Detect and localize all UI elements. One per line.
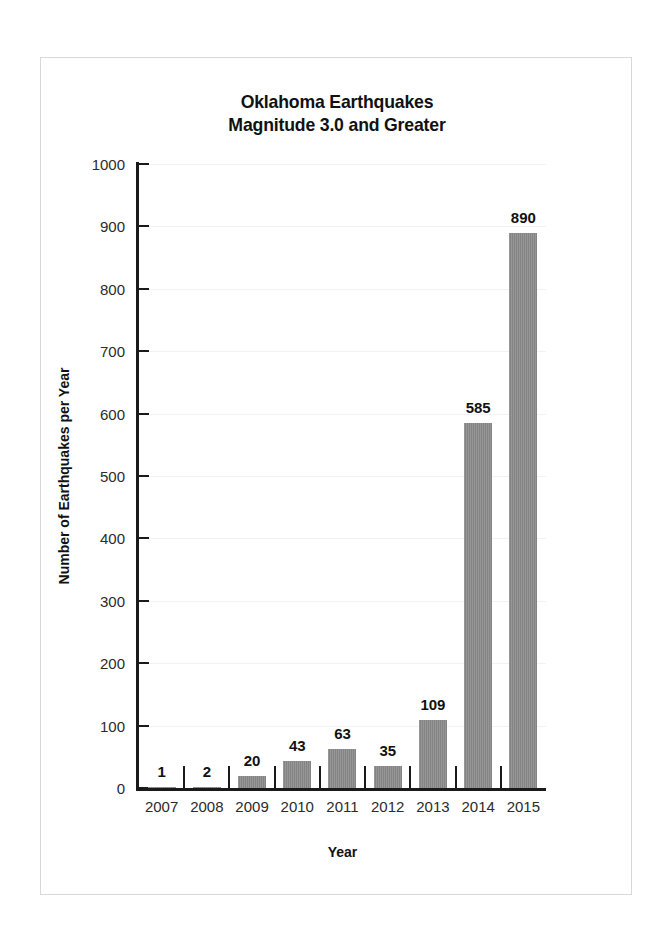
bar-slot: 35 [365,164,410,788]
x-axis-tick-label: 2008 [190,798,223,815]
bar-value-label: 35 [379,742,396,759]
y-axis-tick-label: 500 [100,468,125,485]
bar-slot: 43 [275,164,320,788]
bar-value-label: 43 [289,737,306,754]
bar-slot: 890 [501,164,546,788]
bar-slot: 109 [410,164,455,788]
x-axis-tick-label: 2013 [416,798,449,815]
bar-slot: 20 [229,164,274,788]
chart-page: Oklahoma Earthquakes Magnitude 3.0 and G… [0,0,670,948]
x-axis-tick [409,766,411,788]
x-axis-tick [500,766,502,788]
y-axis-tick-label: 300 [100,592,125,609]
x-axis-tick [319,766,321,788]
x-axis-tick-label: 2015 [507,798,540,815]
x-axis-tick-label: 2010 [281,798,314,815]
bar-value-label: 109 [420,696,445,713]
bar-value-label: 2 [203,763,211,780]
bar-value-label: 20 [244,752,261,769]
x-axis-tick-label: 2007 [145,798,178,815]
x-axis-tick-label: 2014 [461,798,494,815]
y-axis-tick-label: 900 [100,218,125,235]
x-axis-tick-label: 2011 [326,798,358,815]
x-axis-tick [228,766,230,788]
x-axis-tick-label: 2009 [235,798,268,815]
bar[interactable] [328,749,356,788]
chart-frame: Oklahoma Earthquakes Magnitude 3.0 and G… [40,57,632,895]
bar[interactable] [238,776,266,788]
x-axis-tick [455,766,457,788]
chart-title-line-2: Magnitude 3.0 and Greater [62,113,613,136]
bar-slot: 1 [139,164,184,788]
bar[interactable] [509,233,537,788]
y-axis-tick-label: 0 [117,780,125,797]
y-axis-tick-label: 100 [100,717,125,734]
bar-series: 1220436335109585890 [139,164,546,788]
x-axis-tick-label: 2012 [371,798,404,815]
plot-area: Number of Earthquakes per Year 010020030… [139,164,546,788]
bar[interactable] [464,423,492,788]
bar-slot: 63 [320,164,365,788]
y-axis-title: Number of Earthquakes per Year [56,368,72,585]
y-axis-tick-label: 1000 [92,156,125,173]
bar-slot: 2 [184,164,229,788]
y-axis-tick-label: 600 [100,405,125,422]
y-axis-tick-label: 200 [100,655,125,672]
x-axis-line [136,788,546,791]
bar-slot: 585 [456,164,501,788]
chart-title-line-1: Oklahoma Earthquakes [62,90,613,113]
bar-value-label: 890 [511,209,536,226]
bar[interactable] [283,761,311,788]
chart-title: Oklahoma Earthquakes Magnitude 3.0 and G… [62,90,613,136]
bar-value-label: 585 [466,399,491,416]
x-axis-tick [183,766,185,788]
x-axis-tick [364,766,366,788]
bar-value-label: 63 [334,725,351,742]
bar[interactable] [374,766,402,788]
bar[interactable] [419,720,447,788]
bar[interactable] [193,787,221,789]
y-axis-tick-label: 700 [100,343,125,360]
bar-value-label: 1 [157,763,165,780]
y-axis-tick-label: 800 [100,280,125,297]
y-axis-tick-label: 400 [100,530,125,547]
bar[interactable] [148,787,176,789]
x-axis-tick [274,766,276,788]
x-axis-title: Year [139,844,546,860]
